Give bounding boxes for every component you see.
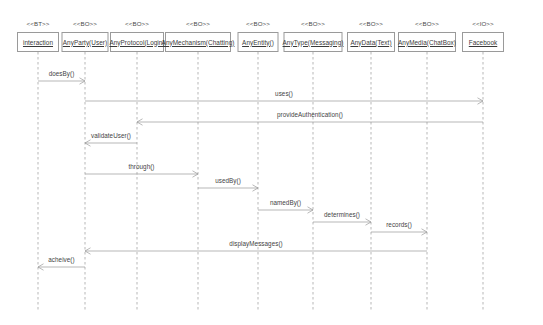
lifeline-box-interaction[interactable]: interaction <box>17 32 59 52</box>
message-label-m8: determines() <box>324 211 360 218</box>
lifeline-box-anytype[interactable]: AnyType(Messaging) <box>284 32 343 52</box>
lifeline-box-facebook[interactable]: Facebook <box>462 32 504 52</box>
message-label-m10: displayMessages() <box>229 240 282 247</box>
lifeline-name-anyentity: AnyEntity() <box>242 39 274 46</box>
lifeline-stereotype-anydata: <<BO>> <box>359 20 383 27</box>
lifeline-box-anyprotocol[interactable]: AnyProtocol(Login) <box>110 32 164 52</box>
message-label-m1: doesBy() <box>49 70 75 77</box>
lifeline-name-anydata: AnyData(Text) <box>350 39 391 46</box>
lifeline-name-anymedia: AnyMedia(ChatBox) <box>398 39 456 46</box>
message-label-m4: validateUser() <box>91 132 131 139</box>
lifeline-stereotype-interaction: <<BT>> <box>27 20 50 27</box>
lifeline-box-anymechanism[interactable]: AnyMechanism(Chatting) <box>165 32 231 52</box>
lifeline-stereotype-anymedia: <<BO>> <box>415 20 439 27</box>
lifeline-box-anydata[interactable]: AnyData(Text) <box>347 32 395 52</box>
lifeline-name-anytype: AnyType(Messaging) <box>283 39 344 46</box>
sequence-diagram: <<BT>>interaction<<BO>>AnyParty(User)<<B… <box>0 0 543 325</box>
lifeline-box-anymedia[interactable]: AnyMedia(ChatBox) <box>398 32 456 52</box>
lifeline-stereotype-anytype: <<BO>> <box>301 20 325 27</box>
lifeline-stereotype-anyprotocol: <<BO>> <box>125 20 149 27</box>
message-label-m5: through() <box>128 163 154 170</box>
message-label-m7: namedBy() <box>270 199 301 206</box>
message-label-m6: usedBy() <box>215 177 241 184</box>
lifeline-name-anyprotocol: AnyProtocol(Login) <box>109 39 164 46</box>
lifeline-stereotype-anymechanism: <<BO>> <box>186 20 210 27</box>
message-label-m3: provideAuthentication() <box>277 111 343 118</box>
lifeline-box-anyparty[interactable]: AnyParty(User) <box>62 32 109 52</box>
lifeline-stereotype-facebook: <<IO>> <box>472 20 494 27</box>
lifeline-name-interaction: interaction <box>23 39 53 46</box>
lifeline-box-anyentity[interactable]: AnyEntity() <box>238 32 279 52</box>
lifeline-stereotype-anyparty: <<BO>> <box>73 20 97 27</box>
lifeline-dashed-lines <box>38 52 483 310</box>
lifeline-name-facebook: Facebook <box>469 39 497 46</box>
message-label-m9: records() <box>386 221 412 228</box>
lifeline-stereotype-anyentity: <<BO>> <box>246 20 270 27</box>
message-label-m2: uses() <box>275 90 293 97</box>
lifeline-name-anymechanism: AnyMechanism(Chatting) <box>162 39 235 46</box>
message-label-m11: acheive() <box>48 256 74 263</box>
lifeline-name-anyparty: AnyParty(User) <box>63 39 107 46</box>
